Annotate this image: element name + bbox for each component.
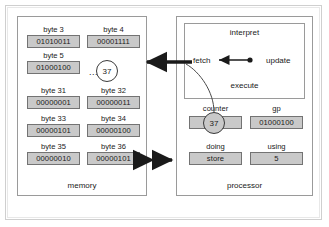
execute-label: execute — [184, 81, 305, 90]
register-value-gp: 01000100 — [250, 116, 303, 129]
memory-title: memory — [17, 181, 147, 190]
update-label: update — [266, 56, 290, 65]
byte-label-4: byte 4 — [87, 25, 140, 35]
byte-value-3: 01010011 — [27, 35, 80, 48]
byte-value-36: 00000101 — [87, 152, 140, 165]
byte-value-32: 00000011 — [87, 96, 140, 109]
counter-circle: 37 — [203, 112, 225, 134]
byte-label-3: byte 3 — [27, 25, 80, 35]
byte-label-32: byte 32 — [87, 86, 140, 96]
byte-label-36: byte 36 — [87, 142, 140, 152]
register-label-gp: gp — [250, 104, 303, 114]
byte-label-31: byte 31 — [27, 86, 80, 96]
register-value-using: 5 — [250, 152, 303, 165]
byte-value-5: 01000100 — [27, 61, 80, 74]
byte-value-35: 00000010 — [27, 152, 80, 165]
processor-title: processor — [176, 181, 313, 190]
byte-value-31: 00000001 — [27, 96, 80, 109]
byte-label-5: byte 5 — [27, 51, 80, 61]
memory-pointer-circle: 37 — [96, 60, 118, 82]
fetch-label: fetch — [193, 56, 210, 65]
register-label-using: using — [250, 142, 303, 152]
byte-label-35: byte 35 — [27, 142, 80, 152]
register-label-doing: doing — [189, 142, 242, 152]
register-value-doing: store — [189, 152, 242, 165]
byte-value-34: 00000100 — [87, 124, 140, 137]
byte-label-34: byte 34 — [87, 114, 140, 124]
byte-value-33: 00000101 — [27, 124, 80, 137]
byte-label-33: byte 33 — [27, 114, 80, 124]
diagram-canvas: byte 3 01010011 byte 4 00001111 byte 5 0… — [0, 0, 329, 227]
interpret-title: interpret — [184, 28, 305, 37]
byte-value-4: 00001111 — [87, 35, 140, 48]
